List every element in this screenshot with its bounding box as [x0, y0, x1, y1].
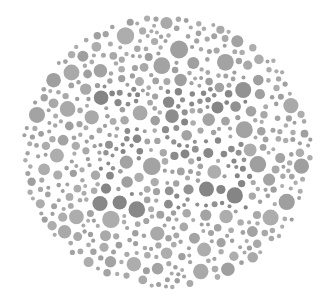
- background-dot: [249, 44, 256, 51]
- background-dot: [263, 137, 269, 143]
- background-dot: [262, 230, 269, 237]
- background-dot: [144, 186, 151, 193]
- background-dot: [284, 123, 289, 128]
- background-dot: [86, 219, 90, 223]
- background-dot: [153, 188, 160, 195]
- background-dot: [289, 186, 293, 190]
- background-dot: [68, 241, 73, 246]
- background-dot: [50, 212, 54, 216]
- background-dot: [201, 229, 205, 233]
- background-dot: [187, 254, 191, 258]
- figure-dot: [114, 99, 121, 106]
- background-dot: [131, 54, 135, 58]
- figure-dot: [185, 144, 189, 148]
- background-dot: [139, 192, 143, 196]
- background-dot: [72, 142, 80, 150]
- background-dot: [255, 221, 259, 225]
- figure-dot: [134, 99, 139, 104]
- background-dot: [36, 199, 45, 208]
- background-dot: [45, 192, 51, 198]
- figure-dot: [101, 184, 111, 194]
- background-dot: [84, 257, 94, 267]
- background-dot: [207, 49, 212, 54]
- background-dot: [85, 140, 89, 144]
- background-dot: [202, 26, 207, 31]
- background-dot: [270, 186, 276, 192]
- figure-dot: [130, 144, 134, 148]
- background-dot: [221, 263, 235, 277]
- background-dot: [138, 276, 147, 285]
- background-dot: [111, 249, 116, 254]
- background-dot: [247, 245, 252, 250]
- background-dot: [281, 165, 285, 169]
- background-dot: [34, 143, 39, 148]
- background-dot: [170, 285, 175, 290]
- figure-dot: [124, 136, 130, 142]
- background-dot: [307, 155, 312, 160]
- background-dot: [114, 61, 118, 65]
- background-dot: [146, 85, 151, 90]
- background-dot: [271, 147, 275, 151]
- background-dot: [297, 196, 301, 200]
- background-dot: [88, 232, 93, 237]
- background-dot: [44, 153, 48, 157]
- figure-dot: [94, 90, 109, 105]
- figure-dot: [235, 173, 240, 178]
- background-dot: [47, 108, 51, 112]
- background-dot: [193, 264, 208, 279]
- background-dot: [113, 233, 119, 239]
- background-dot: [184, 18, 189, 23]
- background-dot: [205, 70, 210, 75]
- background-dot: [152, 78, 159, 85]
- background-dot: [155, 242, 161, 248]
- background-dot: [228, 228, 234, 234]
- background-dot: [145, 53, 153, 61]
- background-dot: [152, 93, 158, 99]
- background-dot: [197, 108, 203, 114]
- background-dot: [197, 243, 211, 257]
- background-dot: [216, 73, 221, 78]
- background-dot: [77, 108, 83, 114]
- background-dot: [127, 238, 132, 243]
- background-dot: [82, 229, 86, 233]
- background-dot: [212, 266, 219, 273]
- background-dot: [172, 226, 176, 230]
- background-dot: [250, 156, 267, 173]
- background-dot: [38, 163, 50, 175]
- background-dot: [89, 60, 94, 65]
- background-dot: [33, 101, 37, 105]
- background-dot: [223, 44, 227, 48]
- background-dot: [63, 59, 68, 64]
- background-dot: [253, 75, 264, 86]
- background-dot: [57, 61, 61, 65]
- background-dot: [77, 51, 88, 62]
- background-dot: [56, 90, 61, 95]
- background-dot: [231, 35, 243, 47]
- figure-dot: [164, 200, 173, 209]
- figure-dot: [177, 143, 182, 148]
- background-dot: [84, 197, 89, 202]
- background-dot: [176, 17, 181, 22]
- background-dot: [230, 239, 234, 243]
- background-dot: [242, 76, 246, 80]
- background-dot: [166, 216, 171, 221]
- background-dot: [83, 63, 87, 67]
- background-dot: [269, 236, 275, 242]
- background-dot: [274, 69, 278, 73]
- figure-dot: [231, 158, 236, 163]
- background-dot: [171, 210, 176, 215]
- background-dot: [249, 192, 256, 199]
- background-dot: [222, 35, 229, 42]
- background-dot: [156, 211, 164, 219]
- background-dot: [102, 211, 119, 228]
- background-dot: [152, 24, 156, 28]
- figure-dot: [208, 87, 213, 92]
- background-dot: [132, 65, 138, 71]
- background-dot: [62, 93, 68, 99]
- background-dot: [288, 92, 292, 96]
- background-dot: [170, 170, 174, 174]
- background-dot: [215, 83, 225, 93]
- background-dot: [27, 141, 32, 146]
- background-dot: [135, 77, 144, 86]
- figure-dot: [176, 104, 181, 109]
